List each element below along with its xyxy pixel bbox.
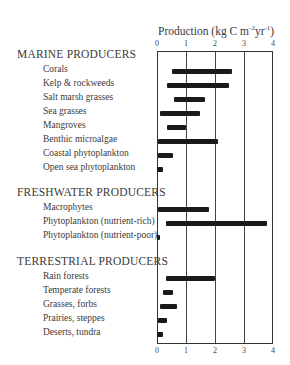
x-tick-label-bottom: 4 [271,346,275,355]
gridline [244,52,245,343]
group-header: TERRESTRIAL PRODUCERS [17,255,168,267]
range-bar [174,97,204,102]
range-bar [166,276,215,281]
range-bar [158,153,173,158]
category-label: Corals [43,64,68,74]
range-bar [172,69,233,74]
range-bar [158,139,217,144]
x-tick-label-top: 1 [184,39,188,48]
x-tick-label-bottom: 0 [155,346,159,355]
category-label: Sea grasses [43,106,87,116]
category-label: Phytoplankton (nutrient-poor) [43,230,157,240]
x-tick-label-bottom: 1 [184,346,188,355]
category-label: Open sea phytoplankton [43,162,135,172]
range-bar [167,125,186,130]
category-label: Phytoplankton (nutrient-rich) [43,216,155,226]
range-bar [157,332,163,337]
category-label: Deserts, tundra [43,327,101,337]
category-label: Grasses, forbs [43,299,97,309]
range-bar [158,207,209,212]
group-header: FRESHWATER PRODUCERS [17,186,166,198]
x-tick-label-top: 3 [242,39,246,48]
gridline [186,52,187,343]
category-label: Coastal phytoplankton [43,148,129,158]
x-tick-label-top: 0 [155,39,159,48]
range-bar [160,111,201,116]
plot-area [157,51,273,344]
gridline [215,52,216,343]
range-bar [160,304,177,309]
axis-title: Production (kg C m-2yr-1) [158,24,274,37]
range-bar [157,235,160,240]
x-tick-label-bottom: 3 [242,346,246,355]
range-bar [157,167,163,172]
category-label: Kelp & rockweeds [43,78,114,88]
group-header: MARINE PRODUCERS [17,48,136,60]
range-bar [158,318,167,323]
category-label: Prairies, steppes [43,313,105,323]
range-bar [167,83,229,88]
category-label: Mangroves [43,120,86,130]
x-tick-label-top: 4 [271,39,275,48]
x-tick-label-bottom: 2 [213,346,217,355]
category-label: Benthic microalgae [43,134,117,144]
range-bar [163,290,173,295]
category-label: Temperate forests [43,285,111,295]
category-label: Macrophytes [43,202,93,212]
range-bar [166,221,268,226]
x-tick-label-top: 2 [213,39,217,48]
category-label: Salt marsh grasses [43,92,113,102]
category-label: Rain forests [43,271,89,281]
